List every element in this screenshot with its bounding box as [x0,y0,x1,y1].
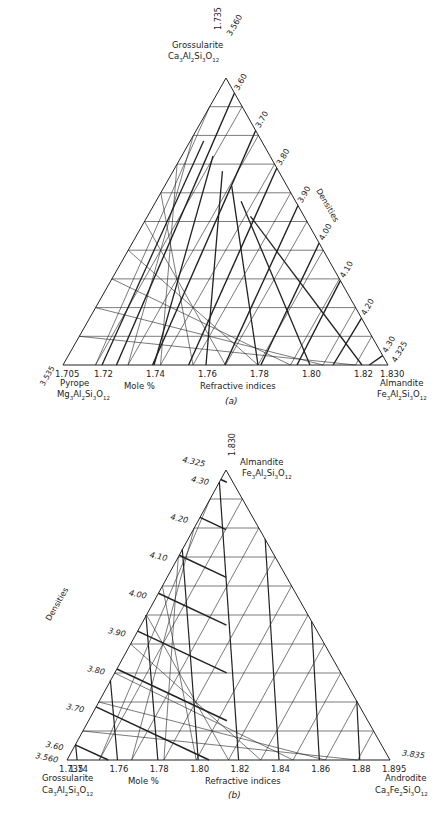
density-line [369,356,382,365]
ri-tick-label: 1.76 [109,764,128,774]
density-tick-label: 4.10 [338,260,355,280]
refractive-index-line [232,186,258,365]
vertex-top-ri-a: 1.735 [214,7,223,30]
ri-tick-label: 1.72 [94,369,113,379]
density-tick-label: 3.70 [66,702,85,715]
ri-tick-label: 1.78 [250,369,269,379]
vertex-left-name-a: Pyrope [60,378,89,388]
vertex-top-name-a: Grossularite [172,40,223,50]
density-tick-label: 4.20 [359,297,376,317]
density-tick-label: 3.80 [86,664,105,677]
density-line [116,93,234,365]
vertex-right-formula-b: Ca3Fe2Si3O12 [375,785,428,797]
caption-b: (b) [228,790,241,800]
ri-tick-label: 1.74 [146,369,165,379]
mole-label-a: Mole % [124,381,155,391]
mole-label-b: Mole % [128,776,159,786]
garnet-ternary-diagrams: 1.7051.721.741.761.781.801.821.8303.603.… [0,0,445,834]
refractive-index-line [265,539,279,760]
density-tick-label: 4.325 [182,455,206,469]
ternary-diagram-a: 1.7051.721.741.761.781.801.821.8303.603.… [55,72,409,379]
refractive-index-line [154,156,213,365]
ri-tick-label: 1.76 [198,369,217,379]
ri-label-b: Refractive indices [205,776,281,786]
density-line [179,555,226,577]
ri-tick-label: 1.86 [311,764,330,774]
refractive-index-line [76,744,78,760]
refractive-index-line [250,216,362,365]
refractive-index-line [357,701,360,760]
density-tick-label: 3.60 [45,740,64,753]
grid-line [96,107,210,365]
ri-tick-label: 1.80 [190,764,209,774]
grid-line [356,336,372,365]
vertex-top-formula-b: Fe3Al2Si3O12 [242,468,292,480]
vertex-right-name-b: Androdite [385,773,426,783]
density-tick-label: 3.70 [254,110,271,130]
ri-tick-label: 1.80 [302,369,321,379]
ri-tick-label: 1.84 [271,764,290,774]
grid-line [161,164,275,365]
density-line [221,479,227,482]
grid-line [147,615,229,760]
density-line [261,243,319,365]
refractive-index-line [102,141,204,365]
density-tick-label: 3.90 [107,626,126,639]
caption-a: (a) [225,396,238,406]
ri-tick-label: 1.82 [354,369,373,379]
vertex-right-formula-a: Fe3Al2Si3O12 [377,389,427,401]
vertex-left-name-b: Grossularite [42,773,93,783]
grid-line [164,557,178,760]
density-line [138,631,227,673]
density-line [225,206,298,365]
density-tick-label: 3.560 [35,751,59,765]
vertex-left-formula-b: Ca3Al2Si3O12 [42,785,93,797]
density-line [96,707,209,760]
vertex-left-formula-a: Mg3Al2Si3O12 [57,389,110,401]
density-line [297,281,340,365]
grid-line [229,615,309,760]
vertex-right-name-a: Almandite [380,378,423,388]
ri-label-a: Refractive indices [200,381,276,391]
density-tick-label: 4.00 [128,588,147,601]
density-tick-label: 3.80 [275,147,292,167]
density-tick-label: 4.30 [190,475,209,488]
ri-tick-label: 1.82 [231,764,250,774]
ternary-diagram-b: 1.7351.741.761.781.801.821.841.861.881.8… [35,455,407,774]
refractive-index-line [206,171,222,365]
density-line [117,669,227,721]
density-tick-label: 4.20 [170,513,189,526]
ri-tick-label: 1.78 [150,764,169,774]
density-tick-label: 3.90 [296,185,313,205]
vertex-top-formula-a: Ca3Al2Si3O12 [168,51,219,63]
ri-tick-label: 1.88 [352,764,371,774]
density-line [158,593,226,625]
vertex-top-name-b: Almandite [240,457,283,467]
grid-line [164,557,275,760]
density-tick-label: 4.00 [317,222,334,242]
density-tick-label: 4.10 [149,550,168,563]
density-tick-label: 3.60 [232,72,249,92]
vertex-top-ri-b: 1.830 [228,433,237,456]
grid-line [291,279,340,365]
refractive-index-line [312,621,320,760]
